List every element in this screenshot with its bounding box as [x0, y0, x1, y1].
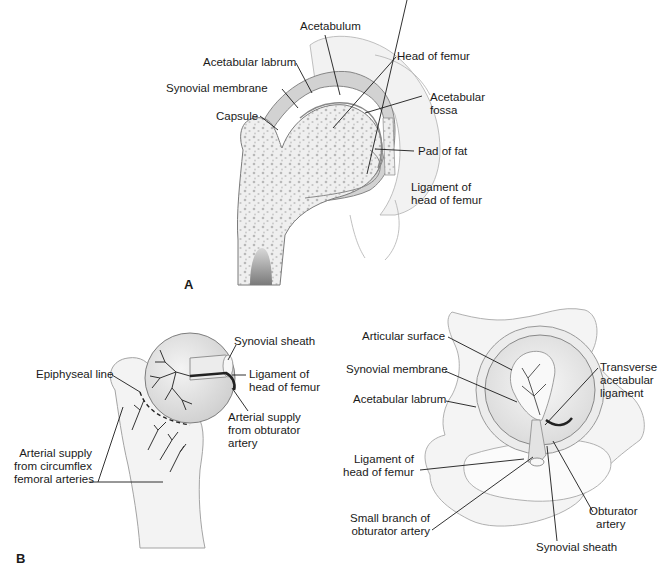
label-obturator-artery-line2: artery — [596, 518, 625, 531]
label-ligament-of-head-of-femur-line2: head of femur — [411, 194, 482, 207]
label-acetabular-fossa-line1: Acetabular — [430, 91, 485, 104]
label-acetabular-labrum-b: Acetabular labrum — [353, 393, 446, 406]
label-capsule: Capsule — [216, 110, 258, 123]
label-arterial-circumflex-line2: from circumflex — [14, 460, 92, 473]
label-ligament-of-head-of-femur-line1: Ligament of — [411, 181, 471, 194]
panel-letter-b: B — [16, 551, 25, 566]
label-ligament-of-head-line1: Ligament of — [249, 368, 309, 381]
label-arterial-circumflex-line1: Arterial supply — [14, 447, 92, 460]
label-arterial-obturator-line3: artery — [228, 437, 257, 450]
label-synovial-sheath-b: Synovial sheath — [536, 541, 617, 554]
label-obturator-artery-line1: Obturator — [589, 505, 638, 518]
panel-a-drawing — [237, 36, 440, 285]
label-pad-of-fat: Pad of fat — [418, 145, 467, 158]
label-small-branch-line2: obturator artery — [340, 525, 430, 538]
label-synovial-membrane: Synovial membrane — [166, 82, 268, 95]
panel-b-right-drawing — [425, 309, 644, 526]
label-head-of-femur: Head of femur — [397, 50, 470, 63]
label-ligament-of-head-b-line1: Ligament of — [330, 453, 414, 466]
panel-b-left-drawing — [110, 333, 235, 548]
label-acetabular-fossa-line2: fossa — [430, 104, 458, 117]
label-acetabular-labrum: Acetabular labrum — [203, 56, 296, 69]
hip-joint-illustration — [0, 0, 668, 570]
label-transverse-line1: Transverse — [600, 361, 657, 374]
label-synovial-membrane-b: Synovial membrane — [346, 363, 448, 376]
label-arterial-obturator-line1: Arterial supply — [228, 411, 301, 424]
label-epiphyseal-line: Epiphyseal line — [36, 368, 113, 381]
label-arterial-obturator-line2: from obturator — [228, 424, 300, 437]
label-synovial-sheath: Synovial sheath — [234, 335, 315, 348]
label-small-branch-line1: Small branch of — [340, 512, 430, 525]
label-transverse-line3: ligament — [600, 387, 643, 400]
label-arterial-circumflex-line3: femoral arteries — [14, 473, 92, 486]
label-ligament-of-head-b-line2: head of femur — [330, 466, 414, 479]
panel-letter-a: A — [184, 277, 193, 292]
label-transverse-line2: acetabular — [600, 374, 654, 387]
label-ligament-of-head-line2: head of femur — [249, 381, 320, 394]
label-articular-surface: Articular surface — [362, 330, 445, 343]
label-acetabulum: Acetabulum — [300, 20, 361, 33]
